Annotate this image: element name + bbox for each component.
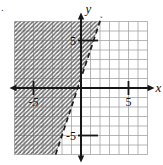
- y-tick-label: 5: [70, 34, 76, 48]
- x-tick-label: -5: [29, 95, 39, 109]
- x-tick-label: 5: [126, 95, 132, 109]
- y-tick-label: -5: [66, 129, 76, 143]
- y-axis-label: y: [84, 1, 92, 16]
- inequality-graph: -555-5xy: [0, 0, 163, 165]
- y-axis-bottom-arrow-icon: [78, 156, 84, 163]
- x-axis-label: x: [155, 80, 162, 95]
- x-axis-right-arrow-icon: [148, 85, 155, 91]
- y-axis-top-arrow-icon: [78, 13, 84, 20]
- x-axis-left-arrow-icon: [10, 85, 17, 91]
- figure-container: -555-5xy: [0, 0, 163, 165]
